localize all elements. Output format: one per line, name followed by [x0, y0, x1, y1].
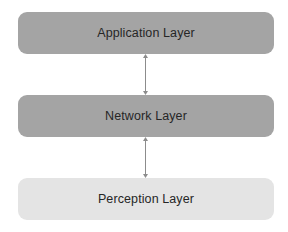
application-layer-box: Application Layer [18, 12, 274, 54]
network-perception-arrow [142, 137, 149, 178]
network-layer-box: Network Layer [18, 95, 274, 137]
application-layer-label: Application Layer [97, 26, 195, 40]
double-arrow-icon [142, 137, 149, 178]
double-arrow-icon [142, 54, 149, 95]
network-layer-label: Network Layer [105, 109, 187, 123]
perception-layer-label: Perception Layer [98, 192, 194, 206]
application-network-arrow [142, 54, 149, 95]
perception-layer-box: Perception Layer [18, 178, 274, 220]
